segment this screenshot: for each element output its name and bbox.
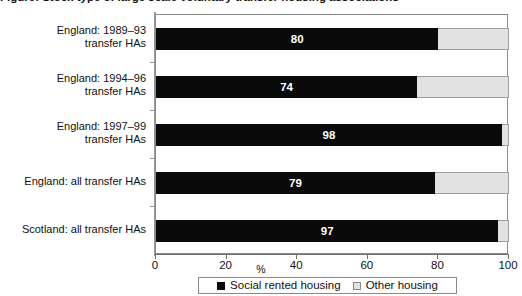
bar-segment-other-housing <box>435 172 509 194</box>
bar-segment-social-rented <box>156 28 438 50</box>
legend-item-social-rented: Social rented housing <box>217 280 341 292</box>
x-axis-tick-label: 80 <box>417 259 457 271</box>
bar-track <box>156 76 507 98</box>
category-axis-labels: England: 1989–93transfer HAsEngland: 199… <box>0 14 150 254</box>
x-axis-tick-label: 20 <box>206 259 246 271</box>
y-axis-tick <box>150 206 155 207</box>
bar-row: 79 <box>156 172 507 194</box>
category-label: England: all transfer HAs <box>0 175 146 188</box>
bar-segment-social-rented <box>156 172 435 194</box>
x-axis-tick-label: 40 <box>276 259 316 271</box>
bar-segment-social-rented <box>156 220 498 242</box>
category-label-line: England: all transfer HAs <box>0 175 146 188</box>
plot-area: 8074987997 <box>155 14 508 254</box>
category-label-line: transfer HAs <box>0 85 146 98</box>
category-label: Scotland: all transfer HAs <box>0 223 146 236</box>
category-label-line: Scotland: all transfer HAs <box>0 223 146 236</box>
bar-segment-other-housing <box>438 28 509 50</box>
bar-track <box>156 220 507 242</box>
y-axis-tick <box>150 62 155 63</box>
bar-track <box>156 124 507 146</box>
x-axis-tick-label: 60 <box>347 259 387 271</box>
category-label: England: 1997–99transfer HAs <box>0 120 146 146</box>
bar-track <box>156 172 507 194</box>
bar-row: 74 <box>156 76 507 98</box>
bar-segment-other-housing <box>498 220 509 242</box>
bar-segment-other-housing <box>417 76 509 98</box>
bar-segment-social-rented <box>156 76 417 98</box>
bar-segment-social-rented <box>156 124 502 146</box>
category-label-line: England: 1997–99 <box>0 120 146 133</box>
bar-row: 80 <box>156 28 507 50</box>
category-label-line: England: 1994–96 <box>0 72 146 85</box>
bar-row: 97 <box>156 220 507 242</box>
category-label: England: 1994–96transfer HAs <box>0 72 146 98</box>
x-axis-tick-label: 100 <box>488 259 522 271</box>
y-axis-tick <box>150 158 155 159</box>
x-axis-line <box>155 254 508 255</box>
filled-square-icon <box>217 282 225 290</box>
category-label: England: 1989–93transfer HAs <box>0 24 146 50</box>
y-axis-tick <box>150 110 155 111</box>
category-label-line: transfer HAs <box>0 133 146 146</box>
legend-label-social-rented: Social rented housing <box>230 280 341 292</box>
legend-label-other-housing: Other housing <box>366 280 438 292</box>
category-label-line: England: 1989–93 <box>0 24 146 37</box>
bar-row: 98 <box>156 124 507 146</box>
open-square-icon <box>353 282 361 290</box>
bar-chart: Figure: Stock type of large scale volunt… <box>0 0 522 296</box>
chart-legend: Social rented housing Other housing <box>198 277 457 294</box>
bar-track <box>156 28 507 50</box>
chart-title-cropped: Figure: Stock type of large scale volunt… <box>0 0 522 5</box>
category-label-line: transfer HAs <box>0 37 146 50</box>
x-axis-tick-label: 0 <box>135 259 175 271</box>
legend-item-other-housing: Other housing <box>353 280 438 292</box>
bar-segment-other-housing <box>502 124 509 146</box>
